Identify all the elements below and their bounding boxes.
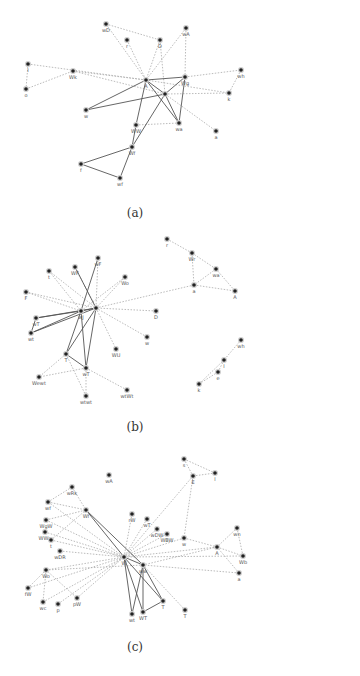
solid-edge bbox=[86, 94, 165, 110]
node-label: rW bbox=[129, 517, 136, 523]
graph-node: wA bbox=[182, 25, 190, 37]
node-label: wA bbox=[182, 31, 190, 37]
dotted-edge bbox=[73, 71, 165, 94]
graph-node: wt bbox=[28, 330, 34, 342]
dotted-edge bbox=[185, 70, 241, 77]
dotted-edge bbox=[49, 271, 81, 311]
node-label: wf bbox=[45, 505, 51, 511]
graph-node: r bbox=[124, 37, 130, 49]
graph-node: w bbox=[83, 107, 89, 119]
graph-node: wf bbox=[117, 175, 123, 187]
solid-edge bbox=[124, 557, 143, 565]
dotted-edge bbox=[143, 565, 239, 573]
graph-node: WU bbox=[112, 346, 121, 358]
graph-node: E bbox=[190, 473, 196, 485]
graph-node: A bbox=[232, 288, 238, 300]
node-label: Wo bbox=[42, 573, 50, 579]
node-label: w bbox=[182, 541, 186, 547]
node-label: wT bbox=[143, 522, 151, 528]
dotted-edge bbox=[39, 368, 86, 377]
graph-node: Wf bbox=[83, 507, 90, 519]
graph-node: a bbox=[191, 282, 197, 294]
graph-node: Wo bbox=[121, 274, 129, 286]
node-label: wa bbox=[175, 126, 182, 132]
dotted-edge bbox=[51, 510, 86, 540]
graph-node: e bbox=[215, 369, 221, 381]
solid-edge bbox=[81, 164, 120, 178]
node-label: l bbox=[214, 476, 215, 482]
node-label: a bbox=[237, 576, 240, 582]
graph-node: s bbox=[181, 456, 187, 468]
graph-node: l bbox=[221, 357, 227, 369]
node-label: wA bbox=[105, 478, 113, 484]
graph-node: I bbox=[25, 61, 31, 73]
solid-edge bbox=[86, 80, 146, 110]
node-label: Wk bbox=[69, 74, 77, 80]
dotted-edge bbox=[146, 28, 186, 80]
node-label: W bbox=[122, 560, 127, 566]
node-label: WT bbox=[139, 615, 148, 621]
graph-node: WW bbox=[131, 122, 141, 134]
graph-node: wT bbox=[32, 315, 40, 327]
panel-b-graph: rWrwaaAwFWFtWoFwJDwTwtwWUTwTWewtwtWtwtwt… bbox=[23, 236, 245, 405]
graph-node: F bbox=[23, 289, 29, 301]
graph-node: wt bbox=[129, 611, 135, 623]
node-label: wD bbox=[102, 27, 110, 33]
node-label: D bbox=[158, 43, 162, 49]
graph-node: a bbox=[213, 128, 219, 140]
node-label: wh bbox=[237, 73, 244, 79]
node-label: Wg bbox=[181, 80, 189, 87]
graph-node: wh bbox=[237, 67, 244, 79]
dotted-edge bbox=[26, 292, 81, 311]
node-label: A bbox=[233, 294, 237, 300]
node-label: wT bbox=[32, 321, 40, 327]
node-label: wf bbox=[117, 181, 123, 187]
node-label: Wf bbox=[83, 513, 90, 519]
node-label: t bbox=[50, 543, 52, 549]
node-label: wRk bbox=[67, 490, 78, 496]
node-label: t bbox=[48, 274, 50, 280]
network-figure: wDrDwAIoWkAWgwhkwWWwaaWffwf rWrwaaAwFWFt… bbox=[0, 0, 360, 676]
solid-edge bbox=[31, 308, 96, 333]
node-label: w bbox=[145, 340, 149, 346]
node-label: WgW bbox=[39, 523, 52, 530]
dotted-edge bbox=[28, 64, 146, 80]
dotted-edge bbox=[136, 123, 179, 125]
solid-edge bbox=[66, 354, 86, 368]
node-label: wtWt bbox=[121, 393, 134, 399]
node-label: wJ bbox=[78, 314, 84, 320]
dotted-edge bbox=[165, 93, 229, 94]
node-label: wh bbox=[237, 343, 244, 349]
dotted-edge bbox=[96, 308, 116, 349]
dotted-edge bbox=[192, 253, 216, 269]
node-label: WW bbox=[131, 128, 141, 134]
dotted-edge bbox=[194, 285, 235, 291]
node-label: Wewt bbox=[32, 380, 46, 386]
dotted-edge bbox=[165, 94, 216, 131]
graph-node: k bbox=[226, 90, 232, 102]
node-label: wc bbox=[40, 605, 47, 611]
panel-a-graph: wDrDwAIoWkAWgwhkwWWwaaWffwf bbox=[23, 21, 245, 187]
graph-node: Wo bbox=[42, 567, 50, 579]
solid-edge bbox=[86, 308, 96, 368]
caption-c: (c) bbox=[127, 640, 143, 654]
graph-node bbox=[93, 305, 99, 311]
dotted-edge bbox=[77, 557, 124, 598]
graph-node bbox=[162, 91, 168, 97]
graph-node: rW bbox=[129, 511, 136, 523]
dotted-edge bbox=[106, 24, 160, 40]
node-label: ww bbox=[139, 568, 147, 574]
dotted-edge bbox=[127, 40, 146, 80]
dotted-edge bbox=[199, 372, 218, 384]
node-label: wtwt bbox=[80, 399, 92, 405]
node-label: Wb bbox=[239, 559, 247, 565]
graph-node: WF bbox=[71, 264, 79, 276]
caption-b: (b) bbox=[126, 420, 143, 434]
solid-edge bbox=[36, 308, 96, 318]
node-label: A bbox=[215, 550, 219, 556]
dotted-edge bbox=[167, 239, 192, 253]
graph-node: wJ bbox=[78, 308, 84, 320]
node-label: pW bbox=[73, 601, 81, 608]
node-label: wt bbox=[28, 336, 34, 342]
solid-edge bbox=[81, 147, 132, 164]
